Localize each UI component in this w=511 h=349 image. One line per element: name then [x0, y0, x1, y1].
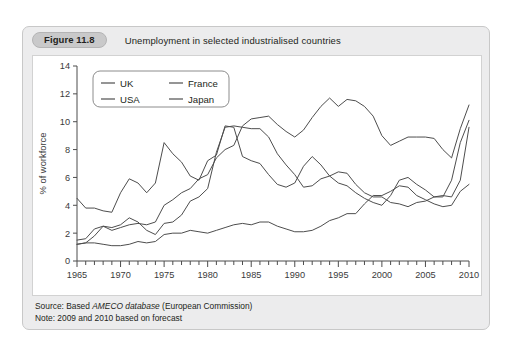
svg-text:1975: 1975 — [154, 270, 174, 280]
figure-container: Figure 11.8 Unemployment in selected ind… — [22, 26, 490, 330]
svg-text:2: 2 — [65, 229, 70, 239]
series-line-uk — [77, 126, 469, 240]
line-chart: 0246810121419651970197519801985199019952… — [33, 56, 481, 295]
chart-plot-panel: 0246810121419651970197519801985199019952… — [32, 55, 482, 296]
figure-footer: Source: Based AMECO database (European C… — [35, 300, 475, 324]
svg-text:1970: 1970 — [110, 270, 130, 280]
source-prefix: Source: Based — [35, 301, 92, 311]
svg-text:6: 6 — [65, 173, 70, 183]
legend-label-uk: UK — [120, 78, 134, 89]
figure-source: Source: Based AMECO database (European C… — [35, 300, 475, 312]
svg-text:8: 8 — [65, 145, 70, 155]
source-suffix: (European Commission) — [160, 301, 253, 311]
series-line-japan — [77, 184, 469, 245]
svg-text:2005: 2005 — [415, 270, 435, 280]
series-line-france — [77, 98, 469, 244]
figure-title-bar: Figure 11.8 Unemployment in selected ind… — [23, 27, 489, 53]
figure-number-badge: Figure 11.8 — [32, 32, 107, 49]
series-line-usa — [77, 120, 469, 212]
svg-text:10: 10 — [60, 117, 70, 127]
svg-text:1980: 1980 — [197, 270, 217, 280]
svg-text:12: 12 — [60, 89, 70, 99]
svg-text:1990: 1990 — [285, 270, 305, 280]
figure-title: Unemployment in selected industrialised … — [125, 35, 341, 46]
svg-text:1995: 1995 — [328, 270, 348, 280]
svg-text:0: 0 — [65, 256, 70, 266]
source-database-name: AMECO database — [92, 301, 160, 311]
legend-label-usa: USA — [120, 94, 140, 105]
svg-text:4: 4 — [65, 201, 70, 211]
svg-text:1985: 1985 — [241, 270, 261, 280]
legend-label-japan: Japan — [188, 94, 214, 105]
legend-label-france: France — [188, 78, 218, 89]
figure-note: Note: 2009 and 2010 based on forecast — [35, 312, 475, 324]
svg-text:2010: 2010 — [459, 270, 479, 280]
svg-text:14: 14 — [60, 61, 70, 71]
svg-text:2000: 2000 — [372, 270, 392, 280]
svg-text:1965: 1965 — [67, 270, 87, 280]
svg-text:% of workforce: % of workforce — [37, 133, 48, 195]
